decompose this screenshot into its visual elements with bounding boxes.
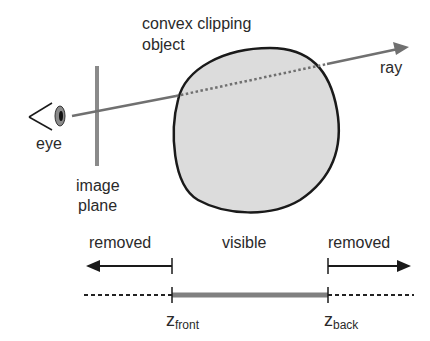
removed-left-label: removed	[89, 233, 151, 252]
z-front-main: z	[166, 310, 175, 330]
arrow-left-icon	[86, 260, 100, 272]
z-back-label: zback	[324, 310, 358, 331]
image-plane-label-line1: image	[76, 176, 120, 195]
visible-label: visible	[222, 233, 266, 252]
object-label-line1: convex clipping	[142, 14, 251, 33]
ray-arrowhead-icon	[393, 42, 409, 55]
convex-clipping-object	[174, 48, 339, 212]
eye-label: eye	[36, 134, 62, 153]
eye-icon	[29, 103, 65, 130]
z-front-label: zfront	[166, 310, 199, 331]
image-plane-label-line2: plane	[78, 196, 117, 215]
arrow-right-icon	[397, 260, 411, 272]
object-label-line2: object	[142, 35, 185, 54]
ray-label: ray	[380, 58, 402, 77]
z-front-subscript: front	[175, 318, 199, 332]
clipping-diagram: convex clipping object ray eye image pla…	[0, 0, 430, 341]
diagram-canvas	[0, 0, 430, 341]
ray-front-segment	[72, 96, 176, 116]
z-back-main: z	[324, 310, 333, 330]
z-back-subscript: back	[333, 318, 358, 332]
removed-right-label: removed	[328, 233, 390, 252]
